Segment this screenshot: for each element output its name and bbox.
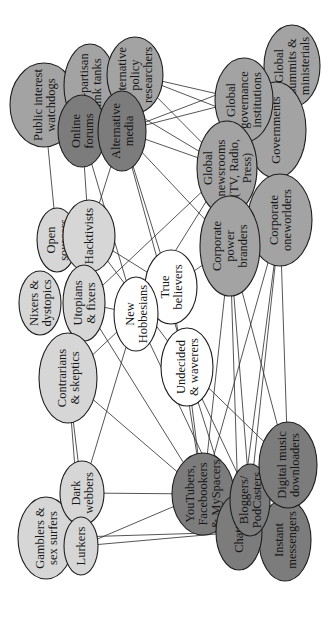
node-label-line: branders xyxy=(236,224,250,267)
node-label-line: & skeptics xyxy=(68,351,82,404)
node-dark-webbers: Darkwebbers xyxy=(60,461,104,525)
node-label-line: Alternative xyxy=(109,102,123,159)
node-label-line: sex surfers xyxy=(46,511,60,565)
node-label-line: Digital music xyxy=(275,431,289,499)
node-utopians-fixers: Utopians& fixers xyxy=(63,265,105,341)
node-label-line: Nixers & xyxy=(27,280,41,326)
node-label-line: dystopics xyxy=(40,279,54,326)
node-label-line: institutions xyxy=(250,72,264,128)
node-label-line: researchers xyxy=(141,47,155,103)
node-label-line: New xyxy=(123,302,137,326)
node-label-line: Corporate xyxy=(267,195,281,245)
network-diagram: Public interestwatchdogsNon-partisanthin… xyxy=(0,0,328,621)
node-new-hobbesians: NewHobbesians xyxy=(114,277,158,351)
node-label-line: Dark xyxy=(69,480,83,506)
node-hacktivists: Hacktivists xyxy=(63,200,115,272)
node-label-line: Facebookers xyxy=(196,462,210,525)
node-label: Gamblers &sex surfers xyxy=(33,507,60,569)
node-label: Undecided& waverers xyxy=(174,338,201,396)
node-label-line: oneworlders xyxy=(280,189,294,251)
node-label-line: YouTubers, xyxy=(183,465,197,523)
node-label: Contrarians& skeptics xyxy=(55,349,82,407)
node-label-line: watchdogs xyxy=(44,78,58,132)
node-label-line: Undecided xyxy=(174,339,188,394)
node-label: Corporateoneworlders xyxy=(267,189,294,251)
node-alternative-media: Alternativemedia xyxy=(98,91,146,171)
node-label-line: Open xyxy=(44,226,58,254)
node-label-line: Online xyxy=(69,114,83,148)
node-lurkers: Lurkers xyxy=(64,517,98,575)
node-label-line: Lurkers xyxy=(74,526,88,565)
node-label-line: media xyxy=(122,115,136,146)
node-label-line: Corporate xyxy=(210,221,224,271)
node-label-line: (TV, Radio, xyxy=(227,139,241,197)
node-label-line: Press) xyxy=(240,153,254,184)
node-label-line: messengers xyxy=(285,511,299,569)
node-contrarians-skeptics: Contrarians& skeptics xyxy=(39,333,97,423)
node-label: Lurkers xyxy=(74,526,88,565)
node-label-line: Bloggers/ xyxy=(237,475,251,524)
node-label-line: Utopians xyxy=(71,280,85,325)
node-label-line: power xyxy=(223,230,237,262)
node-label-line: webbers xyxy=(82,472,96,514)
node-undecided-waverers: Undecided& waverers xyxy=(161,328,213,406)
node-label: Nixers &dystopics xyxy=(27,279,54,326)
node-label-line: ministerials xyxy=(298,37,312,95)
node-label-line: newsrooms xyxy=(214,139,228,196)
node-label-line: & fixers xyxy=(84,282,98,323)
node-label-line: Hacktivists xyxy=(82,208,96,264)
node-label-line: downloaders xyxy=(288,433,302,497)
node-label: Bloggers/PodCasters xyxy=(237,472,264,528)
node-label: Digital musicdownloaders xyxy=(275,431,302,499)
node-label-line: Public interest xyxy=(31,69,45,141)
nodes-layer: Public interestwatchdogsNon-partisanthin… xyxy=(10,25,320,581)
node-label-line: policy xyxy=(128,59,142,91)
node-label: Public interestwatchdogs xyxy=(31,69,58,141)
node-label-line: forums xyxy=(82,113,96,149)
node-label-line: Global xyxy=(224,82,238,117)
node-label-line: Global xyxy=(201,150,215,185)
node-label-line: Hobbesians xyxy=(136,285,150,343)
node-label-line: governance xyxy=(237,71,251,129)
node-label-line: Gamblers & xyxy=(33,507,47,569)
node-label-line: Contrarians xyxy=(55,349,69,407)
node-nixers-dystopics: Nixers &dystopics xyxy=(19,271,61,335)
node-label: Hacktivists xyxy=(82,208,96,264)
node-corporate-power-branders: Corporatepowerbranders xyxy=(200,196,260,296)
node-digital-music-downloaders: Digital musicdownloaders xyxy=(259,422,317,508)
node-label-line: believers xyxy=(171,264,185,309)
node-label-line: & waverers xyxy=(187,338,201,396)
node-label-line: Instant xyxy=(272,522,286,557)
node-label-line: Global xyxy=(272,48,286,83)
node-label-line: True xyxy=(158,275,172,299)
node-label: Utopians& fixers xyxy=(71,280,98,325)
node-label: Onlineforums xyxy=(69,113,96,149)
